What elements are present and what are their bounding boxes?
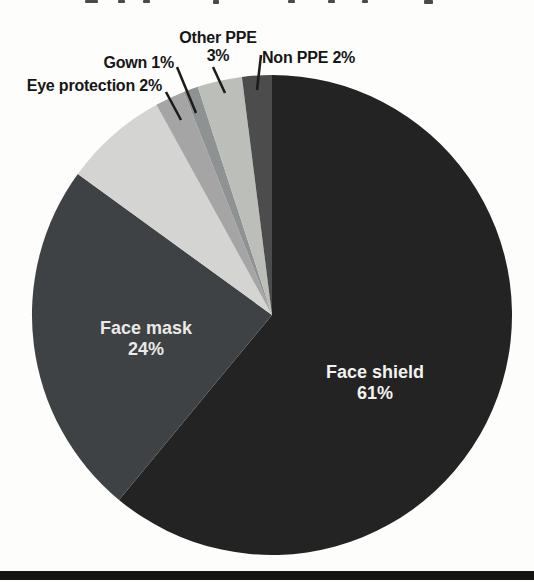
other-ppe-label: Other PPE 3% bbox=[179, 29, 256, 65]
non-ppe-label: Non PPE 2% bbox=[262, 49, 355, 67]
other-ppe-label-line2: 3% bbox=[179, 47, 256, 65]
other-ppe-label-line1: Other PPE bbox=[179, 29, 256, 47]
gown-label: Gown 1% bbox=[103, 54, 174, 72]
pie-slices bbox=[32, 75, 512, 555]
eye-protection-label: Eye protection 2% bbox=[27, 77, 162, 95]
pie-chart-figure: Face shield61%Face mask24% Eye protectio… bbox=[0, 0, 534, 582]
page-edge-bar bbox=[0, 571, 534, 580]
